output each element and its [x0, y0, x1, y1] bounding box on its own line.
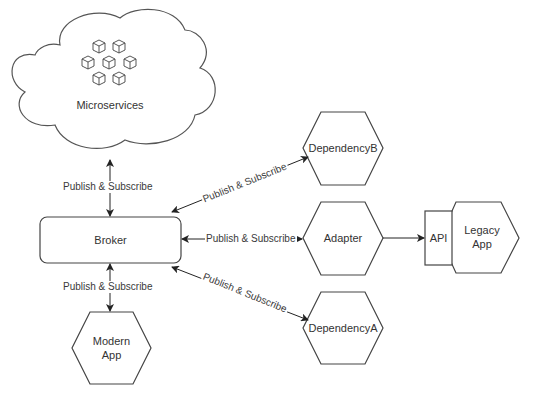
legacy-app-label-line1: Legacy [464, 223, 499, 237]
microservices-cloud[interactable] [12, 9, 215, 148]
broker-label: Broker [40, 233, 181, 247]
dependency-a-label: DependencyA [303, 321, 383, 335]
edge-label-adapter: Publish & Subscribe [205, 233, 297, 245]
adapter-label: Adapter [303, 231, 383, 245]
dependency-b-label: DependencyB [303, 141, 383, 155]
modern-app-label-line2: App [102, 348, 122, 362]
api-label: API [425, 231, 452, 245]
modern-app-label-line1: Modern [93, 334, 130, 348]
microservices-label: Microservices [60, 98, 160, 112]
modern-app-label: Modern App [72, 333, 151, 363]
legacy-app-label-line2: App [472, 237, 492, 251]
edge-label-microservices: Publish & Subscribe [62, 181, 154, 193]
legacy-app-label: Legacy App [452, 222, 512, 252]
edge-label-modern-app: Publish & Subscribe [62, 281, 154, 293]
